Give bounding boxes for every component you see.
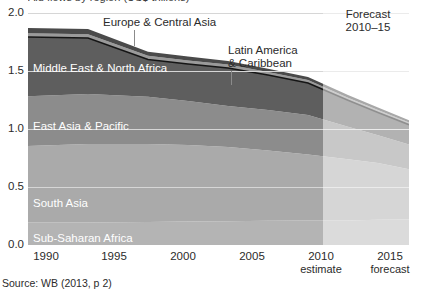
- series-label-south-asia: South Asia: [33, 197, 88, 209]
- source-note: Source: WB (2013, p 2): [2, 277, 112, 289]
- y-tick-0-0: 0.0: [0, 239, 24, 250]
- x-tick-2005-label: 2005: [239, 250, 265, 262]
- x-tick-2000-label: 2000: [170, 250, 196, 262]
- y-tick-2-0: 2.0: [0, 7, 24, 18]
- x-tick-2010-label: 2010: [308, 250, 334, 262]
- x-tick-1995-label: 1995: [101, 250, 127, 262]
- forecast-note-line2: 2010–15: [346, 21, 391, 33]
- x-tick-2015-label: 2015: [377, 250, 403, 262]
- y-tick-1-0: 1.0: [0, 123, 24, 134]
- chart-figure: Aid flows by region (US$ trillions): [0, 0, 422, 298]
- y-tick-0-5: 0.5: [0, 181, 24, 192]
- leader-line-europe-central-asia: [134, 30, 135, 46]
- forecast-note-line1: Forecast: [346, 8, 391, 20]
- forecast-overlay: [323, 13, 409, 245]
- x-tick-2010-sublabel: estimate: [291, 263, 351, 276]
- x-tick-2010: 2010 estimate: [291, 250, 351, 275]
- leader-line-latin-america-caribbean: [231, 71, 232, 85]
- forecast-note: Forecast 2010–15: [330, 8, 406, 34]
- callout-europe-central-asia: Europe & Central Asia: [103, 16, 216, 29]
- series-label-east-asia-pacific: East Asia & Pacific: [33, 120, 129, 132]
- chart-title-clipped: Aid flows by region (US$ trillions): [28, 0, 408, 3]
- x-tick-2000: 2000: [153, 250, 213, 263]
- callout-latin-america-line1: Latin America: [228, 44, 298, 57]
- x-tick-1995: 1995: [84, 250, 144, 263]
- x-tick-1990-label: 1990: [33, 250, 59, 262]
- x-tick-2005: 2005: [222, 250, 282, 263]
- series-label-middle-east-north-africa: Middle East & North Africa: [33, 62, 167, 74]
- x-tick-2015-sublabel: forecast: [360, 263, 420, 276]
- callout-latin-america-line2: & Caribbean: [228, 57, 292, 70]
- x-tick-1990: 1990: [16, 250, 76, 263]
- x-tick-2015: 2015 forecast: [360, 250, 420, 275]
- y-tick-1-5: 1.5: [0, 65, 24, 76]
- series-label-sub-saharan-africa: Sub-Saharan Africa: [33, 232, 133, 244]
